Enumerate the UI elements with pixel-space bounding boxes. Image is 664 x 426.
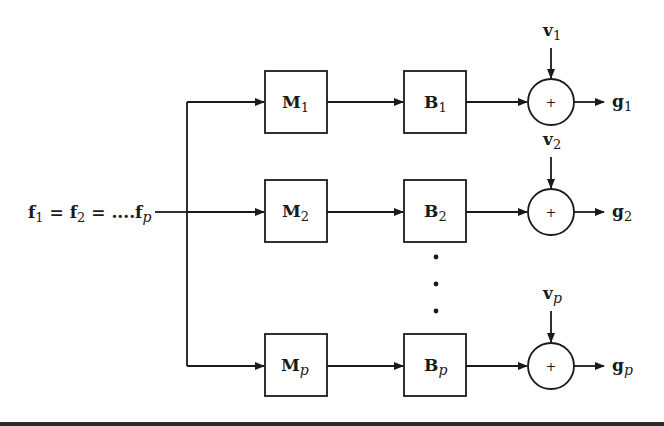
plus-icon: +: [546, 95, 557, 110]
input-splitter: [155, 102, 264, 366]
v-label-p: vp: [542, 283, 562, 306]
branch-row-1: M1 B1 + v1 g1: [265, 20, 632, 133]
g-label-p: gp: [612, 355, 633, 378]
branch-row-p: Mp Bp + vp gp: [265, 283, 633, 396]
v-label-1: v1: [542, 20, 561, 43]
g-label-1: g1: [612, 91, 632, 114]
block-diagram: f1 = f2 = ....fp M1 B1 + v1 g1 M2 B2 + v…: [0, 0, 664, 426]
plus-icon: +: [546, 205, 557, 220]
g-label-2: g2: [612, 201, 632, 224]
input-label: f1 = f2 = ....fp: [28, 202, 151, 225]
ellipsis-dots: [434, 255, 439, 314]
branch-row-2: M2 B2 + v2 g2: [265, 129, 632, 242]
plus-icon: +: [546, 359, 557, 374]
bottom-rule: [0, 422, 664, 426]
v-label-2: v2: [542, 129, 561, 152]
